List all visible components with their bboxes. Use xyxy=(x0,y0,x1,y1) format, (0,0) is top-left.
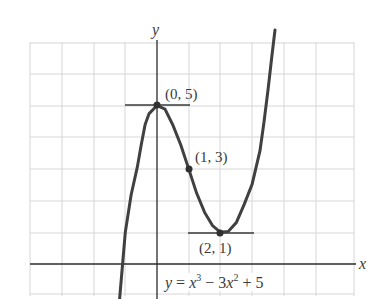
eq-mid: − 3 xyxy=(201,274,226,291)
label-inflection: (1, 3) xyxy=(195,150,228,165)
equation-label: y = x3 − 3x2 + 5 xyxy=(163,273,265,291)
point-local-min xyxy=(217,230,224,237)
point-local-max xyxy=(154,102,161,109)
label-local-min: (2, 1) xyxy=(199,241,232,256)
eq-equals: = xyxy=(172,274,189,291)
point-inflection xyxy=(186,166,193,173)
eq-end: + 5 xyxy=(238,274,263,291)
x-axis-label: x xyxy=(359,256,366,272)
y-axis-label: y xyxy=(152,22,159,38)
cubic-function-graph xyxy=(0,0,379,299)
label-local-max: (0, 5) xyxy=(165,87,198,102)
